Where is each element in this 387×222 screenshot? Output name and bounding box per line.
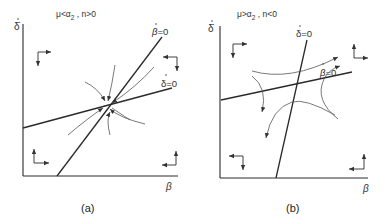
svg-text:δ=0: δ=0: [161, 78, 177, 89]
svg-text:δ̇: δ̇: [14, 21, 21, 32]
panel-b: δ̇ β μ>α2 , n<0 δ=0 β=0: [208, 9, 369, 214]
direction-arrows: [34, 52, 177, 165]
condition-title: μ>α2 , n<0: [237, 9, 277, 21]
isocline-delta-dot-zero: [276, 40, 307, 178]
isocline-label-beta-dot: β=0: [319, 63, 336, 78]
isocline-label-delta-dot: δ=0: [296, 25, 312, 39]
svg-text:μ<α2 , n>0: μ<α2 , n>0: [56, 9, 96, 21]
y-axis-label: δ̇: [14, 18, 21, 32]
isocline-label-beta-dot: β=0: [151, 23, 168, 37]
svg-text:δ=0: δ=0: [296, 28, 312, 39]
condition-title: μ<α2 , n>0: [56, 9, 96, 21]
isocline-beta-dot-zero: [57, 37, 162, 176]
caption-b: (b): [286, 202, 299, 214]
isocline-label-delta-dot: δ=0: [161, 74, 177, 89]
svg-text:β=0: β=0: [151, 26, 168, 37]
panel-a: δ̇ β μ<α2 , n>0 β=0 δ=0: [14, 9, 178, 214]
trajectories-converging: [68, 65, 154, 135]
x-axis-label: β: [165, 181, 172, 192]
direction-arrows: [229, 44, 368, 170]
x-axis-label: β: [362, 183, 369, 194]
caption-a: (a): [81, 202, 94, 214]
phase-diagrams: δ̇ β μ<α2 , n>0 β=0 δ=0: [0, 0, 387, 222]
y-axis-label: δ̇: [208, 20, 215, 34]
svg-text:δ̇: δ̇: [208, 23, 215, 34]
svg-text:μ>α2 , n<0: μ>α2 , n<0: [237, 9, 277, 21]
